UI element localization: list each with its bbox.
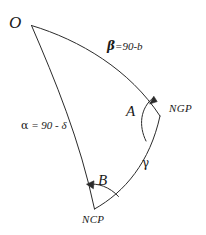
alpha-expression: = 90 - δ — [28, 119, 66, 131]
side-label-beta: β=90-b — [107, 40, 143, 52]
side-label-gamma: γ — [142, 157, 149, 169]
vertex-label-ngp: NGP — [169, 103, 192, 114]
side-label-alpha: α = 90 - δ — [21, 120, 67, 131]
angle-label-a: A — [126, 104, 135, 119]
angle-b-arrowhead — [87, 181, 95, 189]
beta-expression: =90-b — [115, 40, 143, 52]
beta-symbol: β — [107, 39, 115, 53]
spherical-triangle-diagram: O NGP NCP β=90-b α = 90 - δ γ A B — [0, 0, 206, 235]
angle-label-b: B — [98, 173, 107, 188]
diagram-canvas — [0, 0, 206, 235]
vertex-label-o: O — [9, 14, 21, 31]
side-gamma-arc — [95, 116, 161, 209]
vertex-label-ncp: NCP — [82, 214, 104, 225]
side-alpha-arc — [32, 26, 95, 210]
